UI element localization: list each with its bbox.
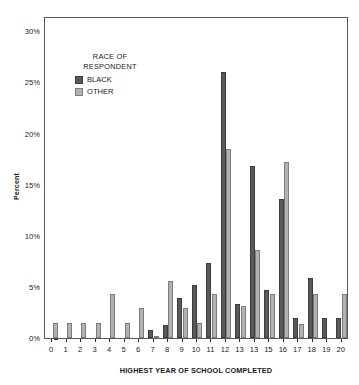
bar xyxy=(336,318,341,338)
x-tick-mark xyxy=(312,339,313,342)
chart-legend: RACE OF RESPONDENT BLACKOTHER xyxy=(58,52,162,98)
bar xyxy=(284,162,289,338)
x-tick-mark xyxy=(109,339,110,342)
bar xyxy=(313,294,318,338)
bar xyxy=(197,323,202,338)
bar xyxy=(226,149,231,338)
x-tick-mark xyxy=(283,339,284,342)
bar xyxy=(163,325,168,338)
bar xyxy=(148,330,153,338)
x-axis-title: HIGHEST YEAR OF SCHOOL COMPLETED xyxy=(44,366,348,375)
bar xyxy=(154,336,159,338)
legend-label: BLACK xyxy=(87,75,112,84)
x-tick-mark xyxy=(239,339,240,342)
bar xyxy=(67,323,72,338)
bar xyxy=(264,290,269,338)
legend-entries: BLACKOTHER xyxy=(58,74,162,97)
bar xyxy=(110,294,115,338)
x-tick-mark xyxy=(95,339,96,342)
x-tick-mark xyxy=(51,339,52,342)
x-tick-mark xyxy=(254,339,255,342)
bar xyxy=(81,323,86,338)
legend-swatch-other xyxy=(75,88,83,96)
x-tick-mark xyxy=(182,339,183,342)
bar-chart: Percent 0%5%10%15%20%25%30% 012345678910… xyxy=(0,0,359,385)
x-tick-mark xyxy=(153,339,154,342)
x-tick-mark xyxy=(124,339,125,342)
bar xyxy=(53,323,58,338)
bar xyxy=(139,308,144,338)
bar xyxy=(279,199,284,338)
bar xyxy=(308,278,313,338)
y-tick-label: 0% xyxy=(16,335,40,343)
bar xyxy=(206,263,211,338)
x-tick-mark xyxy=(225,339,226,342)
x-tick-mark xyxy=(326,339,327,342)
x-tick-mark xyxy=(341,339,342,342)
y-tick-label: 30% xyxy=(16,28,40,36)
legend-title-line-2: RESPONDENT xyxy=(58,62,162,72)
bar xyxy=(299,324,304,338)
bar xyxy=(177,298,182,338)
legend-title-line-1: RACE OF xyxy=(58,52,162,62)
y-axis-ticks: 0%5%10%15%20%25%30% xyxy=(14,0,40,385)
bar xyxy=(270,294,275,338)
bar xyxy=(221,72,226,338)
bar xyxy=(183,308,188,338)
bar xyxy=(212,294,217,338)
x-tick-mark xyxy=(66,339,67,342)
legend-label: OTHER xyxy=(87,87,114,96)
y-tick-label: 25% xyxy=(16,79,40,87)
x-tick-mark xyxy=(138,339,139,342)
legend-item-black[interactable]: BLACK xyxy=(75,74,162,85)
bar xyxy=(235,304,240,338)
x-tick-mark xyxy=(167,339,168,342)
x-tick-mark xyxy=(297,339,298,342)
bar xyxy=(255,250,260,338)
bar xyxy=(96,323,101,338)
legend-swatch-black xyxy=(75,76,83,84)
bar xyxy=(168,281,173,338)
legend-item-other[interactable]: OTHER xyxy=(75,86,162,97)
bar xyxy=(322,318,327,338)
bar xyxy=(241,306,246,338)
x-tick-mark xyxy=(196,339,197,342)
y-tick-label: 15% xyxy=(16,182,40,190)
bar xyxy=(192,285,197,338)
y-tick-label: 5% xyxy=(16,284,40,292)
x-tick-mark xyxy=(80,339,81,342)
x-tick-mark xyxy=(210,339,211,342)
bar xyxy=(250,166,255,338)
x-axis-ticks: 01234567891011121313151617181920 xyxy=(44,339,348,365)
x-tick-mark xyxy=(268,339,269,342)
y-tick-label: 10% xyxy=(16,233,40,241)
bar xyxy=(293,318,298,338)
bar xyxy=(125,323,130,338)
x-tick-label: 20 xyxy=(331,345,351,354)
bar xyxy=(342,294,347,338)
y-tick-label: 20% xyxy=(16,131,40,139)
